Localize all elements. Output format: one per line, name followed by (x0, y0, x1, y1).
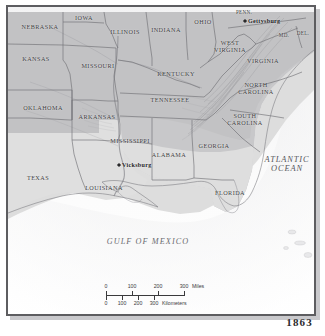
scale-km-tick-200: 200 (134, 300, 143, 306)
scale-tick-mark (184, 291, 185, 296)
scale-miles-tick-300: 300 (180, 283, 189, 289)
scale-km-numbers: 0 100 200 300 Kilometers (106, 300, 210, 308)
scale-tick-mark (158, 291, 159, 296)
historical-map: NEBRASKAIOWAILLINOISINDIANAOHIOPENN.MD.D… (0, 0, 325, 336)
scale-miles-numbers: 0 100 200 300 Miles (106, 283, 210, 291)
scale-axis (106, 295, 185, 296)
scale-tick-mark (132, 291, 133, 296)
map-year-label: 1863 (286, 316, 313, 328)
scale-miles-tick-0: 0 (105, 283, 108, 289)
scale-miles-tick-100: 100 (128, 283, 137, 289)
scale-miles-tick-200: 200 (154, 283, 163, 289)
scale-bar: 0 100 200 300 Miles 0 100 200 300 Kilome… (106, 283, 210, 308)
scale-km-tick-300: 300 (150, 300, 159, 306)
scale-miles-unit: Miles (192, 283, 204, 289)
scale-km-tick-0: 0 (105, 300, 108, 306)
scale-km-unit: Kilometers (162, 300, 187, 306)
scale-ruler (106, 291, 210, 300)
scale-km-tick-100: 100 (118, 300, 127, 306)
